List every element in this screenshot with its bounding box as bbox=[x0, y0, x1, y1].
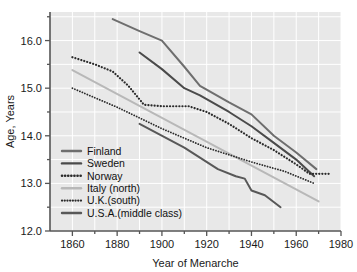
legend-label-norway: Norway bbox=[87, 170, 123, 182]
legend-label-italy-north: Italy (north) bbox=[87, 182, 140, 194]
x-tick-label: 1860 bbox=[60, 238, 84, 250]
y-tick-label: 12.0 bbox=[21, 225, 42, 237]
x-tick-label: 1940 bbox=[239, 238, 263, 250]
x-tick-label: 1980 bbox=[329, 238, 353, 250]
y-tick-label: 15.0 bbox=[21, 82, 42, 94]
chart-container: 12.013.014.015.016.018601880190019201940… bbox=[0, 0, 357, 272]
x-tick-label: 1880 bbox=[105, 238, 129, 250]
legend-label-finland: Finland bbox=[87, 145, 122, 157]
menarche-age-line-chart: 12.013.014.015.016.018601880190019201940… bbox=[0, 0, 357, 272]
legend-label-u-s-a-middle-class: U.S.A.(middle class) bbox=[87, 207, 182, 219]
legend-label-u-k-south: U.K.(south) bbox=[87, 194, 140, 206]
y-tick-label: 14.0 bbox=[21, 130, 42, 142]
x-tick-label: 1900 bbox=[150, 238, 174, 250]
x-tick-label: 1920 bbox=[194, 238, 218, 250]
y-axis-title: Age, Years bbox=[4, 94, 16, 148]
x-axis-title: Year of Menarche bbox=[152, 257, 238, 269]
y-tick-label: 16.0 bbox=[21, 35, 42, 47]
legend-label-sweden: Sweden bbox=[87, 157, 125, 169]
x-tick-label: 1960 bbox=[284, 238, 308, 250]
y-tick-label: 13.0 bbox=[21, 177, 42, 189]
